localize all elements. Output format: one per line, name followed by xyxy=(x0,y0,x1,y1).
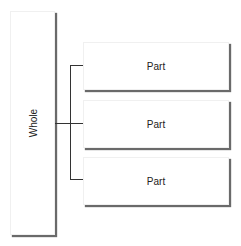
whole-box: Whole xyxy=(10,11,55,235)
connector-root-horizontal xyxy=(55,123,83,124)
part-box-2: Part xyxy=(83,100,229,148)
part-label: Part xyxy=(84,119,228,130)
part-label: Part xyxy=(84,61,228,72)
whole-label: Whole xyxy=(27,109,38,137)
part-label: Part xyxy=(84,176,228,187)
connector-part-3 xyxy=(70,179,83,180)
connector-vertical xyxy=(70,65,71,180)
connector-part-1 xyxy=(70,65,83,66)
part-box-3: Part xyxy=(83,157,229,205)
part-box-1: Part xyxy=(83,42,229,90)
